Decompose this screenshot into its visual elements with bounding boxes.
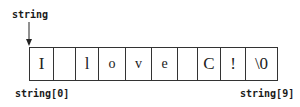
first-index-label: string[0]: [15, 88, 69, 99]
array-cell: [178, 48, 198, 80]
array-cell: [54, 48, 76, 80]
last-index-label: string[9]: [240, 88, 294, 99]
array-cell: e: [152, 48, 178, 80]
array-cell: !: [221, 48, 246, 80]
char-array: I l o v e C ! \0: [29, 47, 278, 81]
array-cell: o: [99, 48, 126, 80]
array-cell: \0: [246, 48, 277, 80]
array-cell: I: [30, 48, 54, 80]
array-cell: l: [76, 48, 99, 80]
array-cell: C: [198, 48, 221, 80]
array-cell: v: [126, 48, 152, 80]
